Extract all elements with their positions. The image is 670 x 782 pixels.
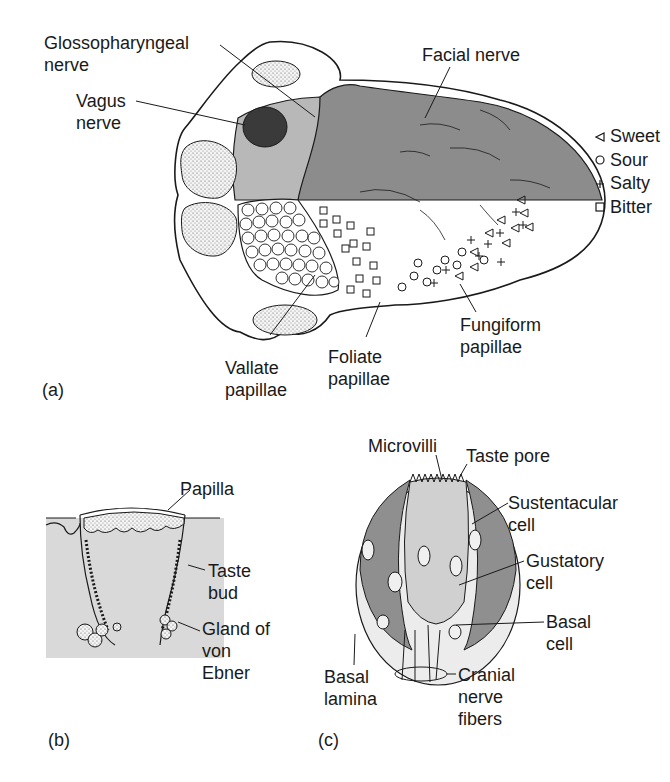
taste-legend: Sweet Sour Salty Bitter bbox=[594, 125, 660, 219]
label-gustatory-cell: Gustatory cell bbox=[526, 550, 604, 594]
label-microvilli: Microvilli bbox=[368, 435, 437, 457]
facial-region bbox=[298, 85, 602, 200]
legend-label: Bitter bbox=[610, 196, 652, 220]
papilla-diagram bbox=[46, 490, 224, 658]
label-taste-pore: Taste pore bbox=[466, 445, 550, 467]
label-gland-of-von-ebner: Gland of von Ebner bbox=[202, 618, 270, 684]
legend-label: Sour bbox=[610, 149, 648, 173]
panel-a-tag: (a) bbox=[42, 380, 64, 401]
label-taste-bud: Taste bud bbox=[208, 560, 251, 604]
panel-b-tag: (b) bbox=[48, 730, 70, 751]
label-foliate-papillae: Foliate papillae bbox=[328, 346, 390, 390]
label-sustentacular-cell: Sustentacular cell bbox=[508, 492, 618, 536]
legend-label: Salty bbox=[610, 172, 650, 196]
lower-oval bbox=[253, 305, 317, 335]
tongue-diagram bbox=[136, 42, 605, 340]
plus-icon bbox=[594, 178, 606, 190]
legend-item-bitter: Bitter bbox=[594, 196, 660, 220]
label-fungiform-papillae: Fungiform papillae bbox=[460, 314, 541, 358]
label-cranial-nerve-fibers: Cranial nerve fibers bbox=[458, 664, 515, 730]
label-glossopharyngeal-nerve: Glossopharyngeal nerve bbox=[44, 32, 189, 76]
label-basal-cell: Basal cell bbox=[546, 611, 591, 655]
vagus-region bbox=[243, 107, 287, 147]
square-icon bbox=[594, 201, 606, 213]
taste-bud-diagram bbox=[354, 455, 544, 685]
label-papilla: Papilla bbox=[180, 478, 234, 500]
triangle-left-icon bbox=[594, 131, 606, 143]
legend-item-salty: Salty bbox=[594, 172, 660, 196]
label-facial-nerve: Facial nerve bbox=[422, 44, 520, 66]
circle-icon bbox=[594, 154, 606, 166]
epiglottis-oval bbox=[252, 61, 300, 87]
gustatory-cells bbox=[404, 478, 468, 624]
panel-c-tag: (c) bbox=[318, 730, 339, 751]
label-vallate-papillae: Vallate papillae bbox=[225, 357, 287, 401]
legend-item-sweet: Sweet bbox=[594, 125, 660, 149]
label-vagus-nerve: Vagus nerve bbox=[76, 90, 126, 134]
legend-label: Sweet bbox=[610, 125, 660, 149]
tissue-background bbox=[46, 518, 224, 658]
tonsil-upper bbox=[181, 141, 237, 199]
label-basal-lamina: Basal lamina bbox=[324, 666, 377, 710]
legend-item-sour: Sour bbox=[594, 149, 660, 173]
